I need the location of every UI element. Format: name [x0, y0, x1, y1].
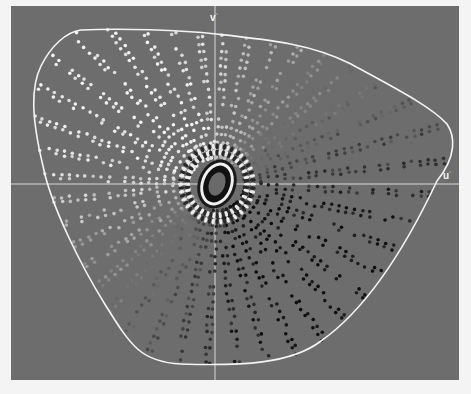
scatter-plot-panel: v° u°	[11, 6, 459, 380]
data-points	[33, 28, 446, 365]
scatter-plot-canvas	[11, 6, 459, 380]
u-axis-label: u°	[443, 170, 452, 181]
v-axis-label: v°	[210, 12, 218, 23]
